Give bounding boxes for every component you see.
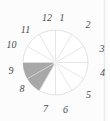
clock-number-10: 10 xyxy=(7,40,17,50)
clock-number-9: 9 xyxy=(9,66,14,76)
clock-number-7: 7 xyxy=(43,104,48,114)
clock-number-2: 2 xyxy=(86,20,91,30)
clock-number-6: 6 xyxy=(63,105,68,115)
clock-number-12: 12 xyxy=(42,13,52,23)
clock-face-drawing xyxy=(0,0,110,121)
clock-number-4: 4 xyxy=(100,68,105,78)
center-dot xyxy=(53,60,58,65)
clock-number-5: 5 xyxy=(86,90,91,100)
clock-number-1: 1 xyxy=(60,13,65,23)
clock-number-8: 8 xyxy=(20,84,25,94)
clock-number-11: 11 xyxy=(21,25,30,35)
clock-face-figure: 1 2 3 4 5 6 7 8 9 10 11 12 xyxy=(0,0,110,121)
clock-number-3: 3 xyxy=(100,44,105,54)
